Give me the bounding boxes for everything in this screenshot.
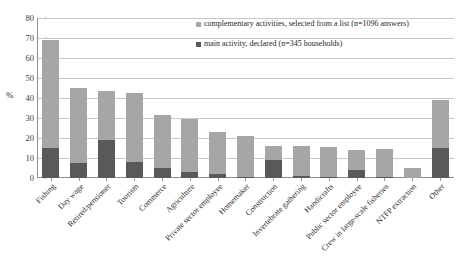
bar-segment-complementary [98,91,115,140]
bar-stack[interactable] [209,132,226,178]
bar-segment-complementary [209,132,226,174]
x-label-slot: Other [426,180,454,264]
bar-segment-complementary [376,149,393,177]
x-label-slot: Invertebrate gathering [287,180,315,264]
y-tick-label: 20 [12,134,34,143]
y-tick-label: 60 [12,54,34,63]
y-tick-label: 10 [12,154,34,163]
bar-stack[interactable] [376,149,393,178]
bar-slot [65,18,93,178]
bar-stack[interactable] [237,136,254,178]
x-label-slot: Tourism [120,180,148,264]
legend-swatch-icon [196,22,201,27]
x-label-slot: Homemaker [232,180,260,264]
bar-stack[interactable] [293,146,310,178]
y-tick-label: 50 [12,74,34,83]
bar-segment-complementary [126,93,143,162]
bar-stack[interactable] [42,40,59,178]
stacked-bar-chart: % 01020304050607080 FishingDay wageRetir… [0,0,461,264]
y-axis-tick-labels: 01020304050607080 [10,0,34,264]
bar-segment-main [154,168,171,178]
legend-item[interactable]: complementary activities, selected from … [196,20,446,28]
bar-slot [93,18,121,178]
bar-segment-main [98,140,115,178]
bar-segment-complementary [42,40,59,148]
bar-stack[interactable] [126,93,143,178]
bar-stack[interactable] [265,146,282,178]
bar-segment-main [432,148,449,178]
bar-stack[interactable] [154,115,171,178]
bar-segment-complementary [432,100,449,148]
bar-segment-complementary [154,115,171,168]
legend-swatch-icon [196,42,201,47]
x-label-slot: NTFP extraction [398,180,426,264]
bar-segment-main [348,170,365,178]
bar-slot [37,18,65,178]
bar-segment-complementary [348,150,365,170]
x-label-slot: Private sector employee [204,180,232,264]
bar-stack[interactable] [404,168,421,178]
y-tick-label: 0 [12,174,34,183]
bar-segment-main [42,148,59,178]
bar-segment-complementary [320,147,337,177]
bar-stack[interactable] [181,119,198,178]
bar-stack[interactable] [432,100,449,178]
x-label-slot: Fishing [37,180,65,264]
y-tick-label: 70 [12,34,34,43]
x-axis-label: Other [427,182,446,201]
bar-segment-complementary [181,119,198,172]
x-axis-labels: FishingDay wageRetired/pensionerTourismC… [37,180,454,264]
x-label-slot: Retired/pensioner [93,180,121,264]
bar-slot [148,18,176,178]
y-tick-label: 30 [12,114,34,123]
y-tick-label: 40 [12,94,34,103]
bar-segment-complementary [70,88,87,163]
bar-segment-main [126,162,143,178]
legend-item[interactable]: main activity, declared (n=345 household… [196,40,446,48]
chart-legend: complementary activities, selected from … [196,20,446,60]
bar-segment-complementary [293,146,310,176]
bar-segment-complementary [237,136,254,177]
x-axis-label: Fishing [34,182,57,205]
bar-stack[interactable] [348,150,365,178]
bar-stack[interactable] [70,88,87,178]
bar-stack[interactable] [320,147,337,178]
bar-segment-main [265,160,282,178]
bar-segment-complementary [265,146,282,160]
y-tick-label: 80 [12,14,34,23]
bar-segment-main [70,163,87,178]
bar-slot [120,18,148,178]
bar-stack[interactable] [98,91,115,178]
legend-label: complementary activities, selected from … [204,20,409,28]
bar-segment-complementary [404,168,421,178]
legend-label: main activity, declared (n=345 household… [204,40,342,48]
x-label-slot: Commerce [148,180,176,264]
